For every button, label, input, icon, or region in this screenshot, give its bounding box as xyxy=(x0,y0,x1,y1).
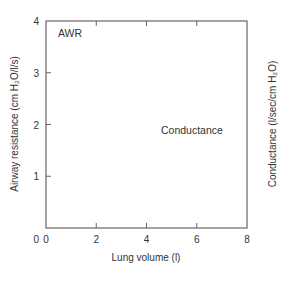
x-tick-label: 8 xyxy=(244,234,250,245)
x-axis-label: Lung volume (l) xyxy=(112,252,181,263)
y-tick-label-left: 2 xyxy=(33,120,39,131)
x-tick-label: 2 xyxy=(93,234,99,245)
origin-hidden: 0 xyxy=(33,234,39,245)
conductance-annotation: Conductance xyxy=(161,124,223,136)
y-tick-label-left: 1 xyxy=(33,171,39,182)
awr-annotation: AWR xyxy=(58,27,83,39)
x-tick-label: 6 xyxy=(194,234,200,245)
x-tick-label: 0 xyxy=(43,234,49,245)
x-tick-label: 4 xyxy=(144,234,150,245)
chart: 0246812340 AWR Conductance Lung volume (… xyxy=(0,0,289,284)
y-axis-label-right: Conductance (l/sec/cm H₂O) xyxy=(267,61,278,188)
y-tick-label-left: 3 xyxy=(33,68,39,79)
y-tick-label-left: 4 xyxy=(33,16,39,27)
y-axis-label-left: Airway resistance (cm H₂O/l/s) xyxy=(9,56,20,192)
